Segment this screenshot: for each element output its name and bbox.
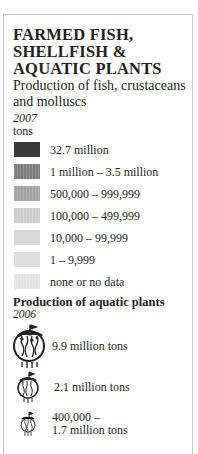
legend-class-label: 32.7 million: [50, 143, 109, 157]
title-line: AQUATIC PLANTS: [13, 60, 162, 77]
legend-title: FARMED FISH, SHELLFISH & AQUATIC PLANTS: [13, 26, 162, 77]
legend-class-label: 500,000 – 999,999: [50, 187, 140, 201]
plants-year: 2006: [13, 308, 36, 321]
legend-class-label: none or no data: [50, 275, 124, 289]
legend-unit: tons: [13, 124, 33, 138]
legend-class-row: 500,000 – 999,999: [14, 186, 140, 201]
plant-label-line: 400,000 –: [52, 411, 128, 424]
color-swatch: [14, 252, 40, 267]
legend-class-label: 1 million – 3.5 million: [50, 165, 158, 179]
color-swatch: [14, 274, 40, 289]
plant-legend-row: 9.9 million tons: [12, 322, 128, 370]
color-swatch: [14, 230, 40, 245]
plant-label-line: 1.7 million tons: [52, 424, 128, 437]
legend-class-row: 10,000 – 99,999: [14, 230, 128, 245]
color-swatch: [14, 186, 40, 201]
aquatic-plant-circle-icon: [16, 370, 42, 404]
color-swatch: [14, 164, 40, 179]
plants-title: Production of aquatic plants: [13, 295, 165, 309]
legend-class-row: 1 million – 3.5 million: [14, 164, 158, 179]
color-swatch: [14, 142, 40, 157]
legend-class-row: none or no data: [14, 274, 124, 289]
aquatic-plant-circle-icon: [19, 410, 39, 437]
plant-legend-row: 400,000 – 1.7 million tons: [19, 410, 128, 437]
legend-year: 2007: [13, 111, 37, 125]
title-line: SHELLFISH &: [13, 43, 162, 60]
plant-legend-row: 2.1 million tons: [16, 370, 130, 404]
title-line: FARMED FISH,: [13, 26, 162, 43]
legend-subtitle: Production of fish, crustaceans and moll…: [13, 78, 191, 110]
legend-class-row: 32.7 million: [14, 142, 109, 157]
color-swatch: [14, 208, 40, 223]
legend-class-label: 1 – 9,999: [50, 253, 95, 267]
legend-class-row: 100,000 – 499,999: [14, 208, 140, 223]
plant-legend-label: 400,000 – 1.7 million tons: [52, 411, 128, 437]
plant-legend-label: 9.9 million tons: [52, 340, 128, 353]
legend-class-label: 100,000 – 499,999: [50, 209, 140, 223]
legend-class-row: 1 – 9,999: [14, 252, 95, 267]
legend-class-label: 10,000 – 99,999: [50, 231, 128, 245]
plant-legend-label: 2.1 million tons: [54, 381, 130, 394]
aquatic-plant-circle-icon: [12, 322, 48, 370]
